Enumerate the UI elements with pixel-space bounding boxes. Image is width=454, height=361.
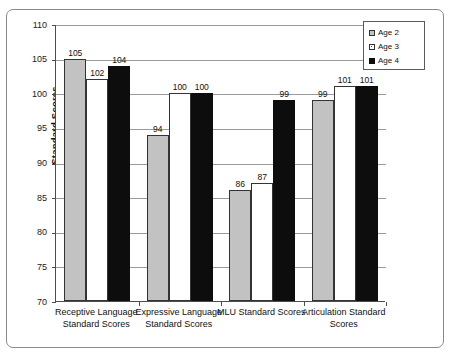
y-tick-label: 105	[32, 55, 47, 64]
y-tick-label: 110	[33, 21, 47, 30]
y-tick-mark	[52, 25, 56, 26]
bar[interactable]	[169, 93, 191, 301]
bar[interactable]	[356, 86, 378, 301]
x-category-label-line2: Standard Scores	[49, 319, 144, 331]
legend-label: Age 2	[378, 29, 399, 37]
x-axis-category-labels: Receptive LanguageStandard ScoresExpress…	[55, 307, 385, 351]
y-tick-mark	[52, 267, 56, 268]
y-tick-label: 85	[37, 194, 47, 203]
bar[interactable]	[251, 183, 273, 301]
x-category-label: Articulation StandardScores	[297, 307, 392, 330]
legend-item[interactable]: Age 4	[369, 54, 424, 67]
legend-item[interactable]: Age 2	[369, 26, 424, 39]
legend-label: Age 3	[378, 43, 399, 51]
legend-swatch-icon	[369, 58, 375, 64]
bar-group	[147, 24, 213, 301]
x-category-label-line2: Standard Scores	[132, 319, 227, 331]
x-category-label: Receptive LanguageStandard Scores	[49, 307, 144, 330]
y-tick-mark	[52, 233, 56, 234]
chart-legend: Age 2Age 3Age 4	[363, 21, 425, 70]
y-tick-mark	[52, 60, 56, 61]
x-category-label-line1: Expressive Language	[135, 307, 222, 317]
x-tick-mark	[221, 302, 222, 306]
bar[interactable]	[229, 190, 251, 301]
y-tick-label: 100	[32, 90, 47, 99]
chart-figure: Standard Scores 110105100959085807570 10…	[0, 0, 454, 361]
x-tick-mark	[304, 302, 305, 306]
y-axis-tick-labels: 110105100959085807570	[0, 0, 52, 361]
bar[interactable]	[64, 59, 86, 301]
x-category-label-line1: Articulation Standard	[302, 307, 386, 317]
y-tick-mark	[52, 94, 56, 95]
legend-label: Age 4	[378, 57, 399, 65]
y-tick-mark	[52, 302, 56, 303]
x-category-label-line1: MLU Standard Scores	[217, 307, 306, 317]
plot-area: 1051021049410010086879999101101	[55, 25, 385, 302]
x-tick-mark	[386, 302, 387, 306]
bar[interactable]	[108, 66, 130, 301]
bar[interactable]	[312, 100, 334, 301]
x-category-label-line2: Scores	[297, 319, 392, 331]
bar[interactable]	[191, 93, 213, 301]
y-tick-mark	[52, 164, 56, 165]
x-category-label: MLU Standard Scores	[214, 307, 309, 319]
bar[interactable]	[86, 79, 108, 301]
y-tick-label: 80	[37, 228, 47, 237]
x-tick-mark	[139, 302, 140, 306]
legend-item[interactable]: Age 3	[369, 40, 424, 53]
y-tick-label: 70	[37, 298, 47, 307]
x-category-label-line1: Receptive Language	[55, 307, 138, 317]
x-category-label: Expressive LanguageStandard Scores	[132, 307, 227, 330]
legend-swatch-icon	[369, 44, 375, 50]
y-tick-mark	[52, 198, 56, 199]
legend-swatch-icon	[369, 30, 375, 36]
bar[interactable]	[334, 86, 356, 301]
y-tick-label: 75	[37, 263, 47, 272]
y-tick-mark	[52, 129, 56, 130]
bar-group	[64, 24, 130, 301]
y-tick-label: 90	[37, 159, 47, 168]
bar-group	[229, 24, 295, 301]
bar[interactable]	[273, 100, 295, 301]
y-tick-label: 95	[37, 124, 47, 133]
bar[interactable]	[147, 135, 169, 301]
